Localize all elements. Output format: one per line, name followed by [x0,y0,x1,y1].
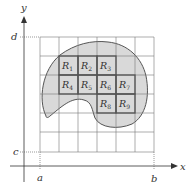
tick-label-a: a [37,172,43,183]
region-D [42,42,147,128]
tick-label-c: c [13,146,19,157]
y-axis-label: y [20,2,27,13]
tick-label-b: b [151,173,157,184]
x-axis-label: x [180,161,186,172]
double-integral-region-diagram: R1 R2 R3 R4 R5 R6 R7 R8 R9 y x d c a b [0,0,195,195]
tick-label-d: d [11,31,17,42]
x-axis-arrow-icon [171,163,178,169]
y-axis-arrow-icon [21,16,27,23]
